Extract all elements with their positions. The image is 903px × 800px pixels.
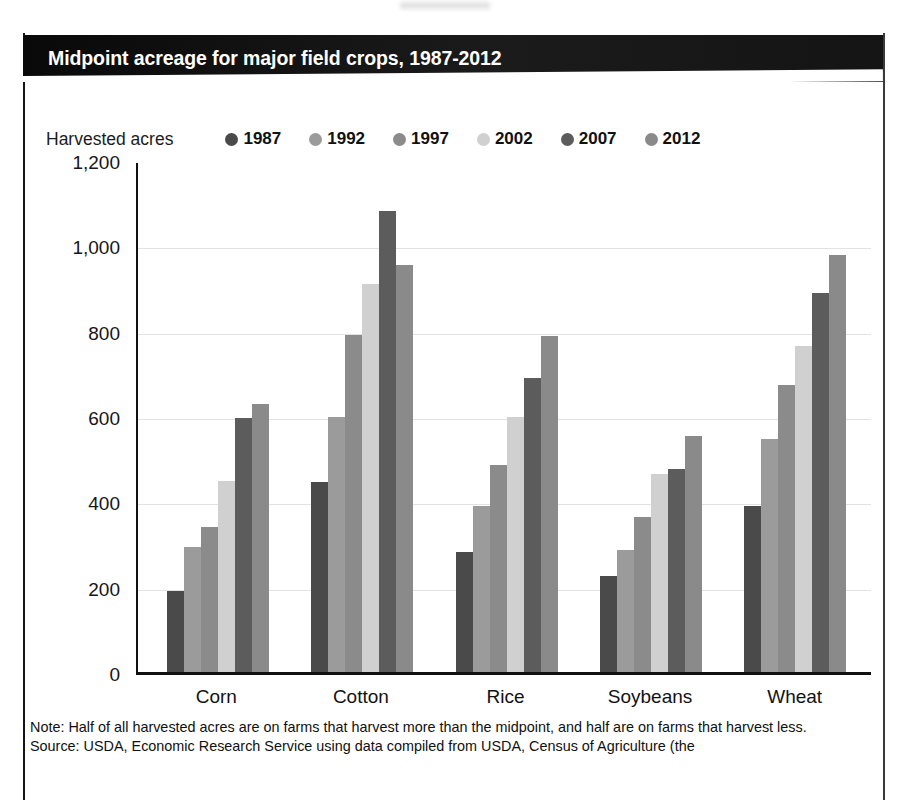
bar-rice-1992[interactable] xyxy=(473,506,490,672)
bar-cotton-1987[interactable] xyxy=(311,482,328,672)
bar-wheat-2002[interactable] xyxy=(795,346,812,672)
legend-swatch-icon xyxy=(561,133,574,146)
x-axis: CornCottonRiceSoybeansWheat xyxy=(136,678,871,712)
legend-swatch-icon xyxy=(225,133,238,146)
bar-wheat-2007[interactable] xyxy=(812,293,829,672)
y-axis-tick-label: 200 xyxy=(88,579,120,601)
bar-cotton-1997[interactable] xyxy=(345,335,362,672)
x-axis-label-rice: Rice xyxy=(433,678,578,712)
bars-layer xyxy=(138,163,871,672)
bar-corn-1992[interactable] xyxy=(184,547,201,672)
bar-wheat-1997[interactable] xyxy=(778,385,795,672)
y-axis-tick-label: 1,200 xyxy=(72,152,120,174)
legend-item-1992[interactable]: 1992 xyxy=(309,129,365,149)
bar-cotton-2012[interactable] xyxy=(396,265,413,672)
legend-label: 1987 xyxy=(243,129,281,149)
legend-swatch-icon xyxy=(645,133,658,146)
x-axis-label-wheat: Wheat xyxy=(722,678,867,712)
bar-corn-2002[interactable] xyxy=(218,481,235,672)
bar-group-wheat xyxy=(723,163,867,672)
bar-rice-2007[interactable] xyxy=(524,378,541,672)
y-axis-tick-label: 400 xyxy=(88,493,120,515)
chart-legend: Harvested acres 198719921997200220072012 xyxy=(46,126,876,152)
legend-swatch-icon xyxy=(393,133,406,146)
bar-wheat-1987[interactable] xyxy=(744,506,761,672)
bar-cotton-2007[interactable] xyxy=(379,211,396,672)
bar-soybeans-2002[interactable] xyxy=(651,474,668,672)
bar-group-rice xyxy=(434,163,578,672)
y-axis: 02004006008001,0001,200 xyxy=(46,163,128,675)
legend-items: 198719921997200220072012 xyxy=(225,129,700,149)
y-axis-tick-label: 600 xyxy=(88,408,120,430)
legend-title: Harvested acres xyxy=(46,129,173,150)
source-text: Source: USDA, Economic Research Service … xyxy=(30,737,882,756)
bar-cotton-2002[interactable] xyxy=(362,284,379,672)
legend-swatch-icon xyxy=(477,133,490,146)
legend-item-2007[interactable]: 2007 xyxy=(561,129,617,149)
bar-corn-1987[interactable] xyxy=(167,591,184,672)
bar-group-corn xyxy=(146,163,290,672)
x-axis-label-soybeans: Soybeans xyxy=(578,678,723,712)
bar-group-soybeans xyxy=(579,163,723,672)
y-axis-tick-label: 1,000 xyxy=(72,237,120,259)
page-title: Midpoint acreage for major field crops, … xyxy=(48,47,502,70)
legend-item-2002[interactable]: 2002 xyxy=(477,129,533,149)
x-axis-label-cotton: Cotton xyxy=(289,678,434,712)
bar-wheat-1992[interactable] xyxy=(761,439,778,672)
note-text: Note: Half of all harvested acres are on… xyxy=(30,718,882,737)
bar-wheat-2012[interactable] xyxy=(829,255,846,672)
bar-soybeans-2012[interactable] xyxy=(685,436,702,672)
x-axis-label-corn: Corn xyxy=(144,678,289,712)
plot-canvas xyxy=(136,163,871,675)
legend-item-2012[interactable]: 2012 xyxy=(645,129,701,149)
bar-rice-2012[interactable] xyxy=(541,336,558,672)
bar-rice-1987[interactable] xyxy=(456,552,473,672)
bar-soybeans-1987[interactable] xyxy=(600,576,617,672)
legend-label: 2002 xyxy=(495,129,533,149)
bar-rice-2002[interactable] xyxy=(507,417,524,672)
legend-label: 1997 xyxy=(411,129,449,149)
bar-rice-1997[interactable] xyxy=(490,465,507,672)
y-axis-tick-label: 800 xyxy=(88,323,120,345)
bar-soybeans-1997[interactable] xyxy=(634,517,651,672)
figure-notes: Note: Half of all harvested acres are on… xyxy=(30,718,882,759)
bar-soybeans-1992[interactable] xyxy=(617,550,634,672)
bar-soybeans-2007[interactable] xyxy=(668,469,685,672)
scan-artifact xyxy=(400,2,490,9)
plot-area: 02004006008001,0001,200 CornCottonRiceSo… xyxy=(46,163,876,683)
legend-label: 1992 xyxy=(327,129,365,149)
bar-group-cotton xyxy=(290,163,434,672)
title-banner: Midpoint acreage for major field crops, … xyxy=(23,35,883,82)
bar-cotton-1992[interactable] xyxy=(328,417,345,672)
bar-corn-1997[interactable] xyxy=(201,527,218,672)
bar-corn-2012[interactable] xyxy=(252,404,269,672)
legend-item-1997[interactable]: 1997 xyxy=(393,129,449,149)
legend-label: 2007 xyxy=(579,129,617,149)
legend-label: 2012 xyxy=(663,129,701,149)
figure-page: Midpoint acreage for major field crops, … xyxy=(0,0,903,800)
legend-item-1987[interactable]: 1987 xyxy=(225,129,281,149)
legend-swatch-icon xyxy=(309,133,322,146)
bar-corn-2007[interactable] xyxy=(235,418,252,672)
y-axis-tick-label: 0 xyxy=(109,664,120,686)
